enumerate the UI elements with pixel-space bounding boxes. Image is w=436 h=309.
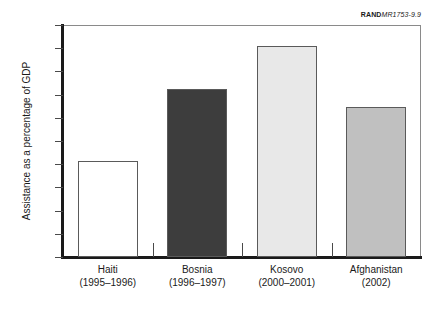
y-tick-mark [55,141,63,142]
y-tick-mark [55,95,63,96]
bar [257,46,317,257]
y-tick-mark [55,71,63,72]
bar-series [63,25,421,257]
rand-document-number: MR1753-9.9 [381,11,421,18]
x-category-label: Afghanistan(2002) [316,263,436,289]
y-tick-mark [55,25,63,26]
bar [167,89,227,257]
rand-logo-text: RAND [361,11,382,18]
y-tick-mark [55,118,63,119]
chart-figure: RANDMR1753-9.9 Assistance as a percentag… [0,0,436,309]
source-credit: RANDMR1753-9.9 [361,11,421,18]
y-tick-mark [55,48,63,49]
x-category-period: (2002) [316,276,436,289]
bar [346,107,406,257]
y-tick-mark [55,164,63,165]
y-tick-mark [55,257,63,258]
bar [78,161,138,257]
x-category-name: Afghanistan [316,263,436,276]
y-tick-mark [55,187,63,188]
y-tick-mark [55,211,63,212]
y-tick-mark [55,234,63,235]
